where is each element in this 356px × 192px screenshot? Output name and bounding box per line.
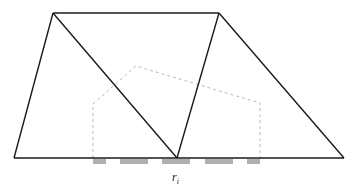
- diagonal-left: [53, 13, 177, 158]
- diagonal-right: [177, 13, 219, 158]
- label-subscript: i: [177, 177, 179, 186]
- triangulation-diagram: [0, 0, 356, 192]
- right-edge: [219, 13, 344, 158]
- interval-segment: [93, 159, 106, 164]
- dashed-region: [93, 66, 260, 158]
- vertex-label: ri: [172, 170, 179, 186]
- interval-segment: [120, 159, 148, 164]
- left-edge: [14, 13, 53, 158]
- interval-segment: [247, 159, 260, 164]
- interval-segment: [162, 159, 190, 164]
- interval-segment: [205, 159, 233, 164]
